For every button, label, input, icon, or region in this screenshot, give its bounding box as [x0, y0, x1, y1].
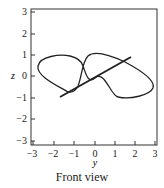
svg-text:−2: −2: [16, 113, 27, 124]
svg-text:3: 3: [153, 148, 158, 159]
y-tick-labels: 3 2 1 0 −1 −2 −3: [16, 6, 27, 146]
x-ticks: [33, 141, 155, 145]
figure-caption: Front view: [0, 170, 164, 185]
x-axis-label: y: [92, 157, 98, 168]
y-axis-label: z: [10, 70, 15, 81]
svg-text:2: 2: [22, 28, 27, 39]
svg-text:0: 0: [22, 70, 27, 81]
svg-text:1: 1: [113, 148, 118, 159]
svg-text:−1: −1: [69, 148, 80, 159]
svg-text:−1: −1: [16, 92, 27, 103]
y-ticks: [31, 12, 35, 141]
svg-text:3: 3: [22, 6, 27, 17]
svg-text:−2: −2: [48, 148, 59, 159]
svg-text:1: 1: [22, 49, 27, 60]
curve: [38, 54, 153, 98]
plot-area: −3 −2 −1 0 1 2 3 y 3 2 1 0 −1 −2 −3 z: [0, 0, 164, 170]
svg-text:−3: −3: [27, 148, 38, 159]
svg-text:2: 2: [133, 148, 138, 159]
svg-text:−3: −3: [16, 135, 27, 146]
